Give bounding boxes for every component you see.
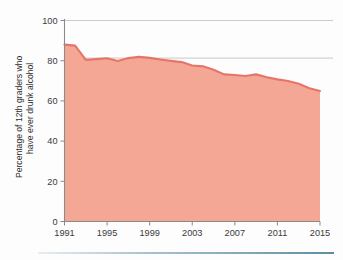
y-tick-label-80: 80 [47,56,57,66]
x-tick-label-2007: 2007 [225,228,245,238]
footer-rule [38,252,334,254]
y-axis-tick-labels: 020406080100 [42,16,57,227]
y-axis-title-line2: have ever drunk alcohol [25,63,35,154]
y-tick-label-0: 0 [52,217,57,227]
y-tick-label-40: 40 [47,136,57,146]
y-tick-label-20: 20 [47,177,57,187]
x-axis-ticks [65,222,321,226]
area-series-fill [65,45,321,222]
y-axis-title-line1: Percentage of 12th graders who [14,55,24,178]
x-tick-label-1991: 1991 [54,228,74,238]
y-tick-label-100: 100 [42,16,57,26]
y-tick-label-60: 60 [47,96,57,106]
chart-figure: 020406080100 199119951999200320072011201… [0,0,343,260]
area-chart: 020406080100 199119951999200320072011201… [0,0,343,260]
gridlines [64,21,333,59]
x-tick-label-1999: 1999 [139,228,159,238]
y-axis-title: Percentage of 12th graders who have ever… [14,55,35,178]
x-axis-tick-labels: 1991199519992003200720112015 [54,228,330,238]
x-tick-label-2015: 2015 [310,228,330,238]
y-axis-ticks [61,21,65,222]
x-tick-label-1995: 1995 [97,228,117,238]
x-tick-label-2011: 2011 [268,228,288,238]
x-tick-label-2003: 2003 [182,228,202,238]
